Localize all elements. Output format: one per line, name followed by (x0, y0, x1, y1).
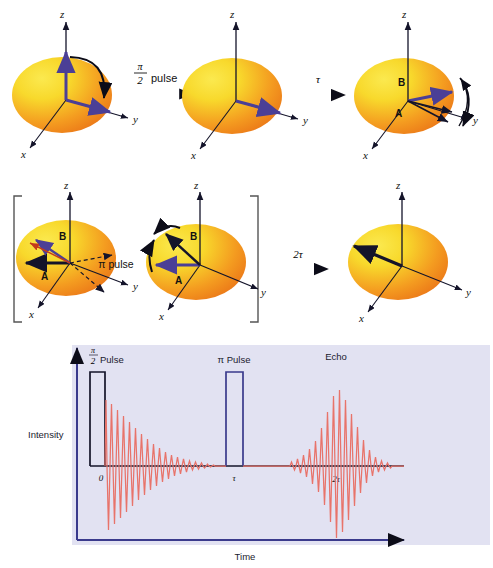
axis-label-z: z (193, 179, 199, 191)
axis-label-y: y (132, 113, 138, 125)
pi-pulse-label: π pulse (98, 258, 133, 270)
row-2: z y x B A z y x B A (14, 179, 471, 324)
axis-label-z: z (395, 179, 401, 191)
axis-label-x: x (362, 149, 368, 161)
axis-label-z: z (59, 8, 65, 20)
axis-label-z: z (401, 8, 407, 20)
sphere-2: z y x (182, 8, 308, 161)
axis-label-x: x (28, 308, 34, 320)
axis-label-x: x (158, 310, 164, 322)
sphere-6: z y x (348, 179, 471, 324)
x-axis-label: Time (235, 551, 256, 562)
y-axis-label: Intensity (28, 429, 64, 440)
vector-label-B: B (59, 231, 66, 242)
row-1: z y x π 2 pulse z y x τ (12, 8, 478, 161)
axis-label-x: x (358, 312, 364, 324)
axis-label-x: x (190, 149, 196, 161)
transition-2tau: 2τ (272, 248, 328, 269)
pi-over-2-denominator: 2 (137, 74, 143, 86)
pulse-sequence-chart: Intensity Time π 2 Pulse π Pulse Echo 0 … (28, 345, 490, 562)
annot-pulse-word: Pulse (100, 354, 124, 365)
axis-label-y: y (260, 286, 266, 298)
bracket-right (250, 196, 258, 322)
annot-pi-pulse: π Pulse (218, 354, 251, 365)
pi-over-2-numerator: π (137, 61, 143, 72)
axis-label-y: y (302, 114, 308, 126)
xtick-0: 0 (99, 473, 104, 483)
axis-label-y: y (132, 280, 138, 292)
vector-label-B: B (398, 77, 405, 88)
transition-pi-pulse: π pulse (98, 258, 133, 270)
pulse-word: pulse (151, 72, 177, 84)
annot-denominator: 2 (91, 356, 96, 366)
figure-canvas: z y x π 2 pulse z y x τ (0, 0, 493, 568)
vector-label-B: B (190, 231, 197, 242)
sphere-5: z y x B A (146, 179, 266, 322)
tau-label: τ (316, 73, 321, 85)
magnetization-sphere (348, 224, 448, 300)
sphere-1: z y x (12, 8, 138, 160)
axis-label-x: x (20, 148, 26, 160)
vector-label-A: A (175, 275, 182, 286)
axis-label-y: y (465, 286, 471, 298)
magnetization-sphere (182, 58, 282, 134)
axis-label-z: z (63, 179, 69, 191)
vector-label-A: A (41, 271, 48, 282)
sphere-3: z y x B A (354, 8, 478, 161)
vector-label-A: A (395, 108, 402, 119)
annot-echo: Echo (325, 351, 347, 362)
transition-tau: τ (297, 73, 345, 95)
sphere-4: z y x B A (16, 179, 138, 320)
xtick-2tau: 2τ (332, 474, 341, 484)
axis-label-y: y (472, 114, 478, 126)
two-tau-label: 2τ (293, 248, 304, 260)
axis-label-z: z (229, 8, 235, 20)
spin-echo-figure: z y x π 2 pulse z y x τ (0, 0, 493, 568)
